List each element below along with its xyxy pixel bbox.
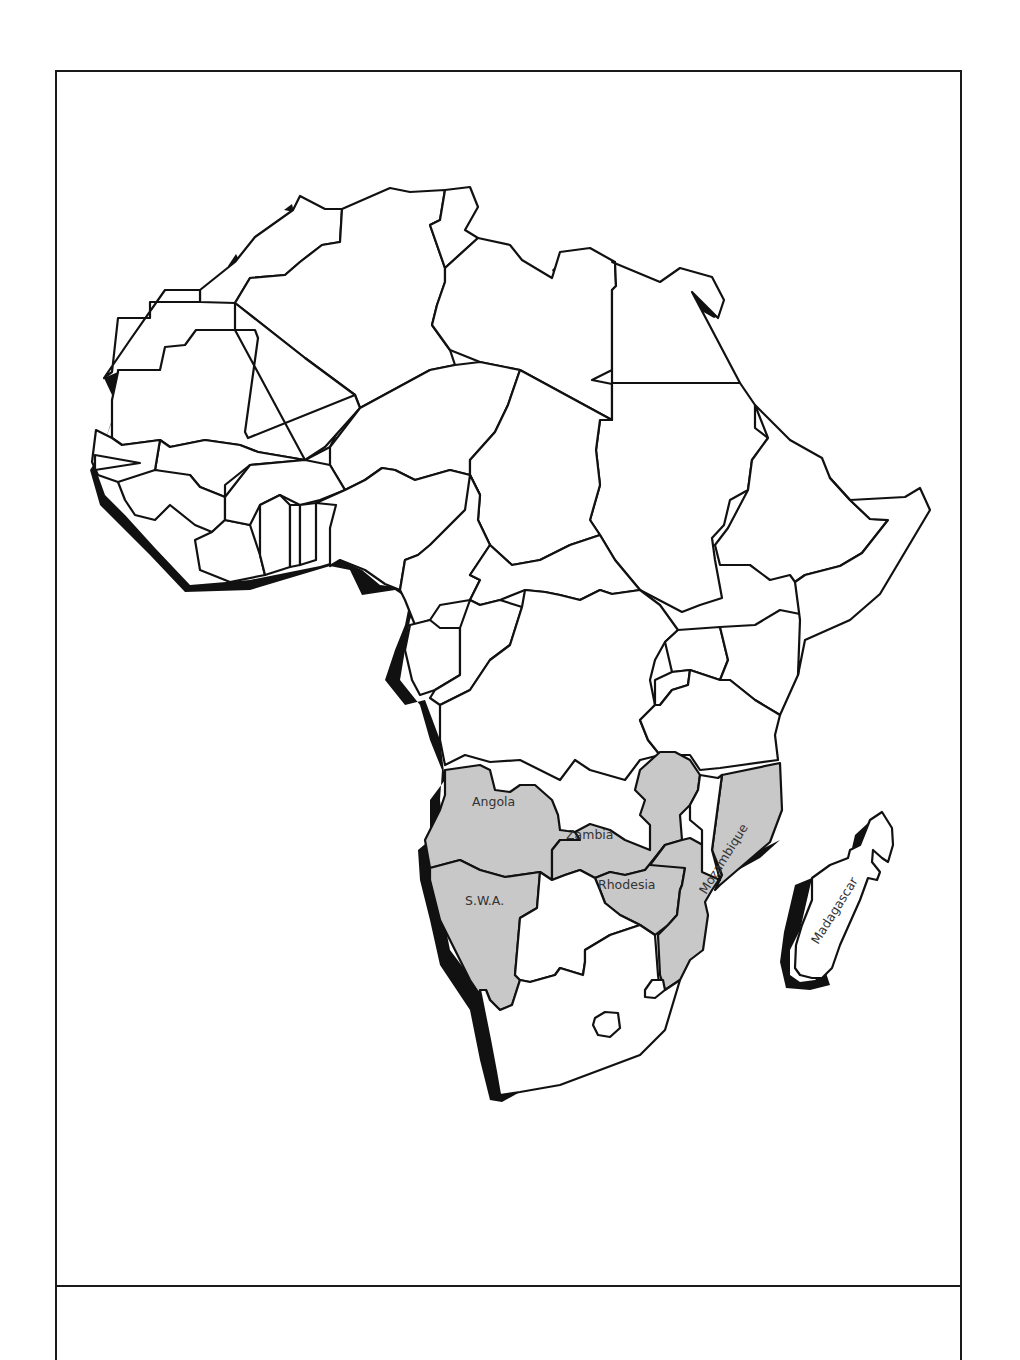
label-rhodesia: Rhodesia <box>598 877 656 892</box>
label-angola: Angola <box>472 794 515 809</box>
region-egypt <box>612 262 740 383</box>
label-zambia: Zambia <box>566 827 613 842</box>
label-swa: S.W.A. <box>465 893 504 908</box>
region-benin <box>300 503 316 565</box>
region-ghana <box>260 495 290 575</box>
caption-area <box>60 1292 957 1332</box>
region-togo <box>290 505 300 567</box>
